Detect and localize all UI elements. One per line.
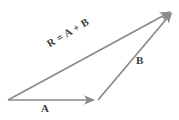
vector-b-label: B: [136, 55, 143, 66]
vector-diagram-canvas: [0, 0, 179, 120]
vector-addition-diagram: A B R = A + B: [0, 0, 179, 120]
vector-b-arrow: [98, 13, 172, 100]
vector-a-label: A: [41, 103, 49, 114]
